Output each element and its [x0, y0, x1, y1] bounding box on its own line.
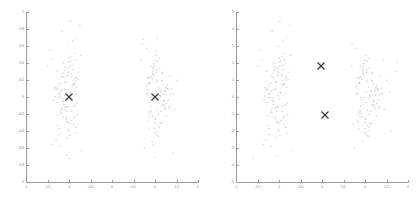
data-point — [147, 120, 149, 122]
data-point — [64, 80, 66, 82]
data-point — [363, 131, 365, 133]
y-axis-tick — [26, 29, 29, 30]
data-point — [272, 72, 274, 74]
data-point — [377, 99, 379, 101]
data-point — [54, 86, 56, 88]
data-point — [362, 73, 364, 75]
data-point — [157, 60, 159, 62]
data-point — [171, 92, 173, 94]
data-point — [161, 104, 163, 106]
centroid-marker — [317, 62, 326, 71]
data-point — [279, 91, 281, 93]
x-axis-tick — [344, 180, 345, 183]
data-point — [71, 40, 73, 42]
x-axis-tick-label: -2 — [234, 185, 237, 189]
data-point — [276, 137, 278, 139]
data-point — [284, 52, 286, 54]
data-point — [74, 37, 76, 39]
data-point — [359, 110, 361, 112]
data-point — [145, 47, 147, 49]
data-point — [278, 128, 280, 130]
data-point — [59, 82, 61, 84]
data-point — [285, 79, 287, 81]
data-point — [158, 126, 160, 128]
data-point — [156, 37, 158, 39]
data-point — [386, 79, 388, 81]
centroid-marker — [151, 93, 160, 102]
y-axis-tick-label: -0.8 — [10, 163, 24, 167]
data-point — [266, 114, 268, 116]
data-point — [74, 52, 76, 54]
data-point — [273, 62, 275, 64]
data-point — [164, 108, 166, 110]
data-point — [364, 121, 366, 123]
data-point — [162, 93, 164, 95]
data-point — [67, 105, 69, 107]
data-point — [287, 113, 289, 115]
data-point — [75, 79, 77, 81]
data-point — [275, 88, 277, 90]
data-point — [145, 85, 147, 87]
data-point — [73, 83, 75, 85]
x-axis-tick-label: 2 — [407, 185, 409, 189]
data-point — [371, 72, 373, 74]
data-point — [47, 65, 49, 67]
data-point — [152, 144, 154, 146]
data-point — [143, 147, 145, 149]
data-point — [172, 152, 174, 154]
y-axis-tick — [26, 97, 29, 98]
data-point — [81, 149, 83, 151]
y-axis-tick — [236, 97, 239, 98]
data-point — [388, 91, 390, 93]
data-point — [281, 40, 283, 42]
y-axis-tick-label: 5 — [220, 10, 234, 14]
data-point — [74, 104, 76, 106]
y-axis-tick-label: -0.2 — [10, 112, 24, 116]
data-point — [373, 83, 375, 85]
x-axis-tick — [408, 180, 409, 183]
data-point — [370, 110, 372, 112]
data-point — [262, 143, 264, 145]
data-point — [376, 88, 378, 90]
data-point — [263, 99, 265, 101]
data-point — [74, 93, 76, 95]
data-point — [361, 140, 363, 142]
y-axis-tick-label: -3 — [220, 146, 234, 150]
data-point — [73, 123, 75, 125]
data-point — [155, 54, 157, 56]
data-point — [147, 88, 149, 90]
data-point — [77, 113, 79, 115]
data-point — [380, 87, 382, 89]
data-point — [379, 75, 381, 77]
data-point — [57, 124, 59, 126]
y-axis-tick-label: 2 — [220, 61, 234, 65]
data-point — [166, 88, 168, 90]
data-point — [66, 67, 68, 69]
x-axis-tick — [279, 180, 280, 183]
data-point — [156, 79, 158, 81]
y-axis-tick — [236, 182, 239, 183]
data-point — [165, 93, 167, 95]
data-point — [285, 126, 287, 128]
data-point — [264, 86, 266, 88]
data-point — [148, 128, 150, 130]
data-point — [366, 69, 368, 71]
data-point — [64, 106, 66, 108]
data-point — [364, 101, 366, 103]
data-point — [289, 24, 291, 26]
data-point — [168, 107, 170, 109]
y-axis-tick-label: -1 — [220, 112, 234, 116]
data-point — [160, 122, 162, 124]
y-axis-tick — [236, 148, 239, 149]
data-point — [65, 88, 67, 90]
data-point — [395, 70, 397, 72]
data-point — [356, 92, 358, 94]
data-point — [359, 116, 361, 118]
data-point — [59, 145, 61, 147]
data-point — [70, 119, 72, 121]
y-axis-tick-label: -0.4 — [10, 129, 24, 133]
data-point — [372, 99, 374, 101]
x-axis-tick-label: 0.5 — [341, 185, 346, 189]
y-axis-tick-label: 0.4 — [10, 61, 24, 65]
data-point — [286, 86, 288, 88]
